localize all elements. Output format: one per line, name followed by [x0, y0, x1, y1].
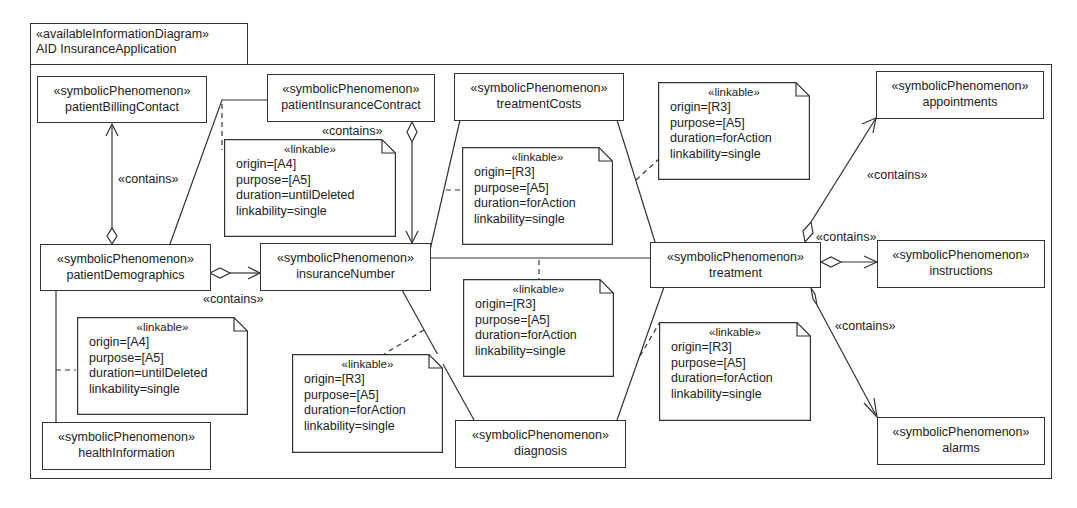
note-stereotype: «linkable» [462, 147, 613, 165]
note-origin: origin=[R3] [292, 372, 443, 388]
stereotype: «symbolicPhenomenon» [268, 81, 434, 97]
stereotype: «symbolicPhenomenon» [878, 247, 1044, 263]
contains-label-contract: «contains» [322, 124, 382, 138]
contains-label-billing: «contains» [118, 172, 178, 186]
phenomenon-diagnosis[interactable]: «symbolicPhenomenon» diagnosis [455, 420, 626, 468]
note-duration: duration=forAction [292, 403, 443, 419]
aggregation-diamond-icon [210, 268, 230, 278]
contains-label-demographics: «contains» [203, 292, 263, 306]
note-origin: origin=[R3] [659, 340, 811, 356]
note-linkable-demographics-health[interactable]: «linkable» origin=[A4] purpose=[A5] dura… [77, 317, 248, 415]
note-origin: origin=[R3] [658, 100, 810, 116]
phenomenon-health-information[interactable]: «symbolicPhenomenon» healthInformation [42, 422, 211, 470]
note-stereotype: «linkable» [658, 82, 810, 100]
phenomenon-alarms[interactable]: «symbolicPhenomenon» alarms [877, 417, 1045, 465]
note-linkable-contract-insurance[interactable]: «linkable» origin=[A4] purpose=[A5] dura… [224, 139, 396, 237]
contains-label-appointments: «contains» [867, 168, 927, 182]
note-linkability: linkability=single [658, 147, 810, 163]
phenomenon-patient-insurance-contract[interactable]: «symbolicPhenomenon» patientInsuranceCon… [267, 74, 435, 122]
note-purpose: purpose=[A5] [224, 173, 396, 189]
phenomenon-name: patientInsuranceContract [268, 97, 434, 113]
contains-label-alarms: «contains» [835, 319, 895, 333]
phenomenon-name: treatment [651, 265, 820, 281]
phenomenon-name: instructions [878, 263, 1044, 279]
phenomenon-patient-demographics[interactable]: «symbolicPhenomenon» patientDemographics [40, 244, 211, 291]
note-linkable-insurance-diagnosis[interactable]: «linkable» origin=[R3] purpose=[A5] dura… [292, 354, 443, 453]
note-linkable-insurance-treatment[interactable]: «linkable» origin=[R3] purpose=[A5] dura… [463, 279, 614, 377]
note-purpose: purpose=[A5] [658, 116, 810, 132]
aggregation-diamond-icon [821, 257, 841, 267]
note-stereotype: «linkable» [659, 322, 811, 340]
phenomenon-patient-billing-contact[interactable]: «symbolicPhenomenon» patientBillingConta… [37, 76, 207, 123]
note-linkable-diagnosis-treatment[interactable]: «linkable» origin=[R3] purpose=[A5] dura… [659, 322, 811, 421]
note-duration: duration=forAction [462, 196, 613, 212]
note-duration: duration=untilDeleted [224, 188, 396, 204]
phenomenon-name: alarms [878, 440, 1044, 456]
note-stereotype: «linkable» [463, 279, 614, 297]
stereotype: «symbolicPhenomenon» [877, 78, 1043, 94]
note-linkability: linkability=single [462, 212, 613, 228]
note-linkability: linkability=single [77, 382, 248, 398]
note-purpose: purpose=[A5] [77, 351, 248, 367]
note-stereotype: «linkable» [77, 317, 248, 335]
note-linkable-costs-treatment[interactable]: «linkable» origin=[R3] purpose=[A5] dura… [658, 82, 810, 180]
aggregation-diamond-icon [107, 228, 117, 244]
phenomenon-name: healthInformation [43, 445, 210, 461]
note-linkability: linkability=single [292, 419, 443, 435]
phenomenon-name: patientBillingContact [38, 99, 206, 115]
phenomenon-instructions[interactable]: «symbolicPhenomenon» instructions [877, 240, 1045, 288]
phenomenon-name: insuranceNumber [261, 266, 430, 282]
note-linkable-costs-insurance[interactable]: «linkable» origin=[R3] purpose=[A5] dura… [462, 147, 613, 245]
phenomenon-name: appointments [877, 94, 1043, 110]
note-purpose: purpose=[A5] [463, 313, 614, 329]
aggregation-diamond-icon [407, 122, 417, 142]
arrowhead-icon [864, 398, 877, 417]
phenomenon-name: diagnosis [456, 443, 625, 459]
note-duration: duration=forAction [658, 131, 810, 147]
note-linkability: linkability=single [463, 344, 614, 360]
stereotype: «symbolicPhenomenon» [878, 424, 1044, 440]
phenomenon-appointments[interactable]: «symbolicPhenomenon» appointments [876, 71, 1044, 119]
note-linkability: linkability=single [659, 387, 811, 403]
stereotype: «symbolicPhenomenon» [41, 251, 210, 267]
note-origin: origin=[R3] [463, 297, 614, 313]
note-stereotype: «linkable» [224, 139, 396, 157]
aggregation-diamond-icon [803, 222, 813, 242]
note-origin: origin=[A4] [77, 335, 248, 351]
stereotype: «symbolicPhenomenon» [261, 250, 430, 266]
note-purpose: purpose=[A5] [292, 388, 443, 404]
phenomenon-insurance-number[interactable]: «symbolicPhenomenon» insuranceNumber [260, 243, 431, 291]
stereotype: «symbolicPhenomenon» [455, 80, 623, 96]
phenomenon-treatment[interactable]: «symbolicPhenomenon» treatment [650, 242, 821, 288]
contains-label-instructions: «contains» [816, 230, 876, 244]
note-purpose: purpose=[A5] [462, 181, 613, 197]
note-stereotype: «linkable» [292, 354, 443, 372]
phenomenon-name: treatmentCosts [455, 96, 623, 112]
note-duration: duration=forAction [463, 328, 614, 344]
note-duration: duration=untilDeleted [77, 366, 248, 382]
stereotype: «symbolicPhenomenon» [651, 249, 820, 265]
phenomenon-treatment-costs[interactable]: «symbolicPhenomenon» treatmentCosts [454, 73, 624, 121]
phenomenon-name: patientDemographics [41, 267, 210, 283]
stereotype: «symbolicPhenomenon» [43, 429, 210, 445]
stereotype: «symbolicPhenomenon» [456, 427, 625, 443]
stereotype: «symbolicPhenomenon» [38, 83, 206, 99]
note-purpose: purpose=[A5] [659, 356, 811, 372]
note-linkability: linkability=single [224, 204, 396, 220]
aggregation-diamond-icon [811, 288, 817, 305]
note-origin: origin=[A4] [224, 157, 396, 173]
note-duration: duration=forAction [659, 371, 811, 387]
note-origin: origin=[R3] [462, 165, 613, 181]
